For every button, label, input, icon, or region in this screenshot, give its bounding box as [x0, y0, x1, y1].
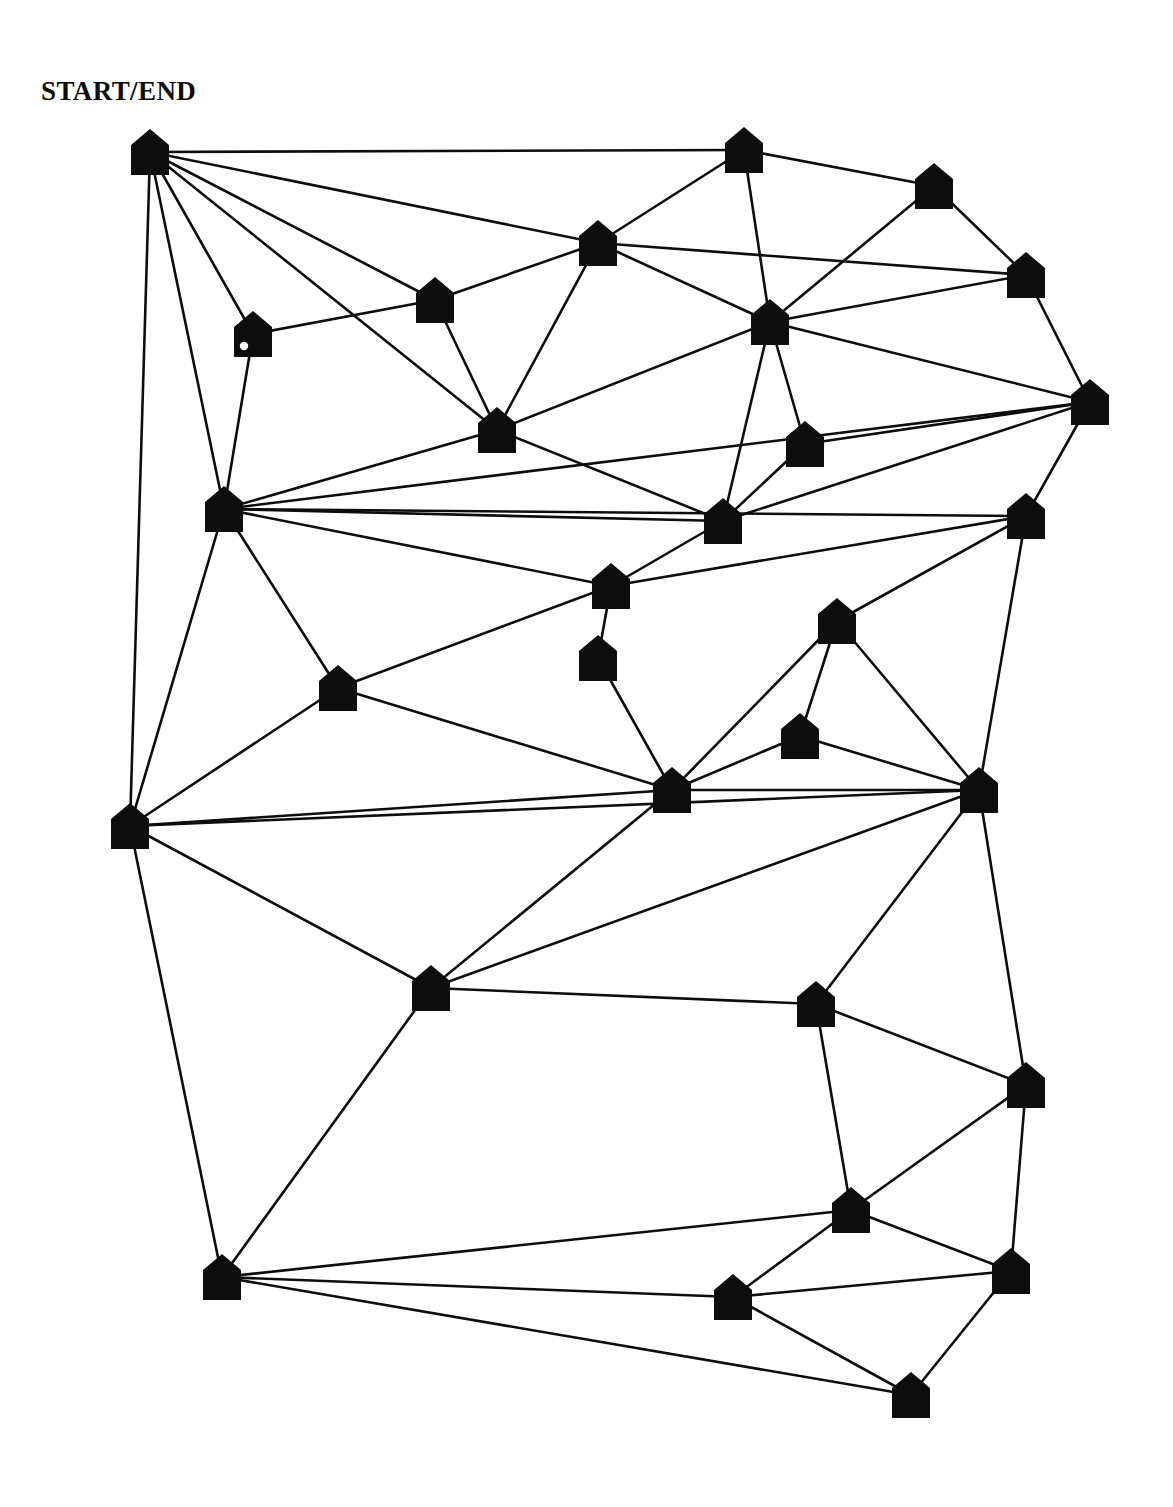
node-center-c[interactable]: [592, 563, 630, 609]
graph-edge: [770, 186, 934, 322]
graph-edge: [723, 322, 770, 521]
house-icon: [131, 129, 169, 175]
node-lower-left-a[interactable]: [412, 965, 450, 1011]
node-center-d[interactable]: [579, 635, 617, 681]
house-icon: [704, 498, 742, 544]
node-top-center[interactable]: [725, 127, 763, 173]
house-icon: [1007, 252, 1045, 298]
house-icon: [1007, 493, 1045, 539]
graph-edge: [224, 509, 338, 688]
graph-edge: [338, 586, 611, 688]
node-center-b[interactable]: [704, 498, 742, 544]
house-icon: [1071, 379, 1109, 425]
house-icon: [111, 803, 149, 849]
graph-edge: [224, 402, 1090, 509]
graph-edge: [222, 1277, 733, 1297]
node-upper-mid[interactable]: [579, 220, 617, 266]
node-upper-right[interactable]: [1007, 252, 1045, 298]
node-circle-icon: [240, 342, 248, 350]
graph-edge: [800, 736, 979, 790]
graph-edge: [979, 516, 1026, 790]
house-icon: [786, 421, 824, 467]
house-icon: [818, 598, 856, 644]
house-icon: [416, 277, 454, 323]
house-icon: [1007, 1062, 1045, 1108]
graph-edge: [150, 150, 744, 152]
house-icon: [915, 163, 953, 209]
graph-edge: [1011, 1085, 1026, 1271]
house-icon: [579, 220, 617, 266]
graph-edge: [224, 509, 611, 586]
node-mid-center-a[interactable]: [786, 421, 824, 467]
graph-edge: [224, 430, 497, 509]
graph-edge: [130, 826, 222, 1277]
house-icon: [781, 713, 819, 759]
graph-edge: [431, 790, 672, 988]
graph-edge: [851, 1210, 1011, 1271]
house-icon: [205, 486, 243, 532]
graph-edge: [224, 334, 253, 509]
graph-edge: [770, 275, 1026, 322]
graph-edge: [253, 300, 435, 334]
graph-edge: [744, 150, 934, 186]
graph-edge: [130, 152, 150, 826]
house-icon: [319, 665, 357, 711]
graph-edge: [770, 322, 1090, 402]
node-center-e[interactable]: [818, 598, 856, 644]
node-lower-center-b[interactable]: [832, 1187, 870, 1233]
node-right-edge[interactable]: [1071, 379, 1109, 425]
house-icon: [725, 127, 763, 173]
node-bottom-left[interactable]: [203, 1254, 241, 1300]
graph-edge: [497, 430, 723, 521]
graph-edge: [816, 1004, 1026, 1085]
node-top-right[interactable]: [915, 163, 953, 209]
graph-edge: [435, 243, 598, 300]
node-left-mid-b[interactable]: [319, 665, 357, 711]
graph-edge: [222, 988, 431, 1277]
graph-edge: [816, 790, 979, 1004]
node-upper-left-a[interactable]: [416, 277, 454, 323]
node-center-upper[interactable]: [751, 299, 789, 345]
house-icon: [653, 767, 691, 813]
graph-edge: [431, 988, 816, 1004]
graph-edge: [979, 790, 1026, 1085]
node-mid-left-a[interactable]: [478, 407, 516, 453]
house-icon: [832, 1187, 870, 1233]
node-circle-marker[interactable]: [234, 311, 272, 357]
graph-edge: [130, 688, 338, 826]
house-icon: [412, 965, 450, 1011]
house-icon: [714, 1274, 752, 1320]
graph-edge: [733, 1271, 1011, 1297]
graph-edge: [851, 1085, 1026, 1210]
graph-edge: [837, 621, 979, 790]
house-icon: [478, 407, 516, 453]
node-lower-right-a[interactable]: [1007, 1062, 1045, 1108]
network-diagram: START/END: [0, 0, 1173, 1507]
graph-edge: [431, 790, 979, 988]
graph-edge: [497, 243, 598, 430]
graph-edge: [130, 509, 224, 826]
graph-edge: [816, 1004, 851, 1210]
node-bottom-center-a[interactable]: [714, 1274, 752, 1320]
graph-edge: [130, 790, 672, 826]
house-icon: [592, 563, 630, 609]
graph-canvas: [0, 0, 1173, 1507]
house-icon: [234, 311, 272, 357]
node-left-hub[interactable]: [205, 486, 243, 532]
house-icon: [579, 635, 617, 681]
graph-edge: [672, 736, 800, 790]
node-small-f[interactable]: [781, 713, 819, 759]
graph-edge: [130, 826, 431, 988]
graph-edge: [222, 1210, 851, 1277]
node-lower-right-b[interactable]: [992, 1248, 1030, 1294]
start-end-node[interactable]: [131, 129, 169, 175]
graph-edge: [744, 150, 770, 322]
node-right-b[interactable]: [1007, 493, 1045, 539]
node-left-hub-b[interactable]: [111, 803, 149, 849]
node-center-hub[interactable]: [653, 767, 691, 813]
graph-edge: [130, 790, 979, 826]
graph-edge: [338, 688, 672, 790]
graph-edge: [222, 1277, 911, 1395]
house-icon: [992, 1248, 1030, 1294]
house-icon: [203, 1254, 241, 1300]
